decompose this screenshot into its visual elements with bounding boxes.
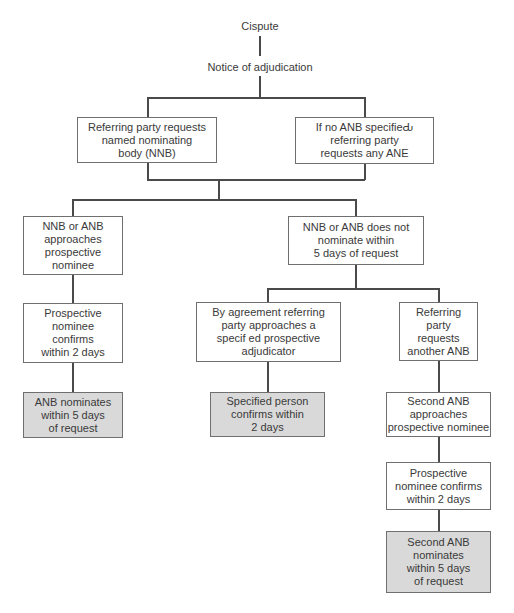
connector xyxy=(72,199,356,201)
node-nnb-not-nominate: NNB or ANB does not nominate within 5 da… xyxy=(288,216,424,265)
node-text: Second ANB approaches prospective nomine… xyxy=(388,395,490,434)
node-text: Prospective nominee confirms within 2 da… xyxy=(395,467,482,506)
node-by-agreement: By agreement referring party approaches … xyxy=(196,302,341,362)
connector xyxy=(267,362,269,392)
connector xyxy=(72,275,74,304)
connector xyxy=(267,288,269,303)
node-text: By agreement referring party approaches … xyxy=(212,306,325,358)
connector xyxy=(259,36,261,56)
node-request-nnb: Referring party requests named nominatin… xyxy=(77,117,217,163)
node-request-anb: If no ANB specifieԂ referring party requ… xyxy=(295,117,434,164)
connector xyxy=(72,363,74,393)
connector xyxy=(72,199,74,217)
connector xyxy=(364,97,366,118)
connector xyxy=(147,163,149,180)
connector xyxy=(438,437,440,462)
notice-of-adjudication-label: Notice of adjudication xyxy=(190,61,330,74)
connector xyxy=(438,361,440,392)
connector xyxy=(218,179,220,200)
connector xyxy=(438,288,440,303)
node-text: NNB or ANB approaches prospective nomine… xyxy=(42,220,103,272)
node-specified-confirms: Specified person confirms within 2 days xyxy=(210,392,325,437)
connector xyxy=(267,288,439,290)
node-second-anb-nominates: Second ANB nominates within 5 days of re… xyxy=(386,531,491,593)
node-nnb-approaches: NNB or ANB approaches prospective nomine… xyxy=(23,216,123,275)
node-text: Prospective nominee confirms within 2 da… xyxy=(41,307,105,359)
node-second-prospective-confirms: Prospective nominee confirms within 2 da… xyxy=(386,462,491,510)
node-second-anb-approaches: Second ANB approaches prospective nomine… xyxy=(386,392,491,437)
connector xyxy=(259,76,261,97)
node-text: If no ANB specifieԂ referring party requ… xyxy=(316,121,413,160)
node-anb-nominates: ANB nominates within 5 days of request xyxy=(23,392,123,438)
node-text: Referring party requests named nominatin… xyxy=(88,121,206,160)
connector xyxy=(364,164,366,180)
node-prospective-confirms: Prospective nominee confirms within 2 da… xyxy=(23,303,123,363)
connector xyxy=(355,265,357,289)
connector xyxy=(438,510,440,531)
dispute-label: Cispute xyxy=(230,20,290,33)
node-text: ANB nominates within 5 days of request xyxy=(35,396,111,435)
node-text: Referring party requests another ANB xyxy=(407,306,469,358)
connector xyxy=(147,97,365,99)
connector xyxy=(355,199,357,216)
connector xyxy=(147,179,365,181)
node-text: Specified person confirms within 2 days xyxy=(227,395,309,434)
node-text: Second ANB nominates within 5 days of re… xyxy=(407,536,471,588)
connector xyxy=(147,97,149,118)
node-request-another-anb: Referring party requests another ANB xyxy=(399,302,478,361)
node-text: NNB or ANB does not nominate within 5 da… xyxy=(303,221,409,260)
